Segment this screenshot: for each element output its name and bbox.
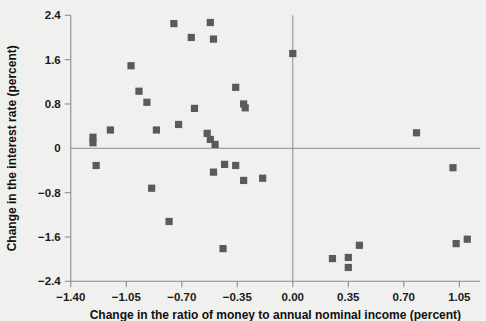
scatter-chart: 2.41.60.80−0.8−1.6−2.4−1.40−1.05−0.70−0.… (0, 0, 486, 321)
data-point-marker (170, 20, 177, 27)
y-tick-label: −0.8 (38, 187, 61, 199)
data-point-marker (259, 175, 266, 182)
data-point-marker (191, 105, 198, 112)
data-point-marker (175, 121, 182, 128)
y-axis-title: Change in the interest rate (percent) (5, 45, 19, 251)
x-tick-label: −0.35 (223, 291, 253, 303)
data-point-marker (232, 162, 239, 169)
data-point-marker (221, 161, 228, 168)
x-tick-label: −0.70 (167, 291, 196, 303)
data-point-marker (210, 169, 217, 176)
data-point-marker (89, 139, 96, 146)
data-point-marker (345, 254, 352, 261)
data-point-marker (356, 242, 363, 249)
data-point-marker (207, 19, 214, 26)
scatter-plot-canvas: 2.41.60.80−0.8−1.6−2.4−1.40−1.05−0.70−0.… (0, 0, 486, 321)
x-tick-label: −1.40 (56, 291, 85, 303)
data-point-marker (135, 88, 142, 95)
data-point-marker (453, 240, 460, 247)
x-tick-label: 1.05 (448, 291, 471, 303)
data-point-marker (127, 62, 134, 69)
y-tick-label: 0 (54, 142, 60, 154)
data-point-marker (329, 255, 336, 262)
x-axis-title: Change in the ratio of money to annual n… (90, 308, 461, 321)
data-point-marker (188, 34, 195, 41)
x-tick-label: −1.05 (112, 291, 142, 303)
y-tick-label: 1.6 (45, 54, 61, 66)
x-tick-label: 0.70 (393, 291, 415, 303)
data-point-marker (289, 50, 296, 57)
data-point-marker (345, 264, 352, 271)
data-point-marker (165, 218, 172, 225)
x-tick-label: 0.35 (337, 291, 360, 303)
y-tick-label: −1.6 (38, 231, 61, 243)
data-point-marker (211, 141, 218, 148)
data-point-marker (143, 99, 150, 106)
data-point-marker (148, 185, 155, 192)
data-point-marker (242, 104, 249, 111)
y-tick-label: 2.4 (45, 9, 62, 21)
data-point-marker (464, 236, 471, 243)
data-point-marker (240, 177, 247, 184)
data-point-marker (107, 126, 114, 133)
y-tick-label: 0.8 (45, 98, 62, 110)
data-point-marker (232, 84, 239, 91)
data-point-marker (219, 245, 226, 252)
data-point-marker (153, 126, 160, 133)
x-tick-label: 0.00 (282, 291, 304, 303)
data-point-marker (210, 36, 217, 43)
data-point-marker (449, 164, 456, 171)
y-tick-label: −2.4 (38, 275, 61, 287)
data-point-marker (93, 162, 100, 169)
data-point-marker (413, 129, 420, 136)
